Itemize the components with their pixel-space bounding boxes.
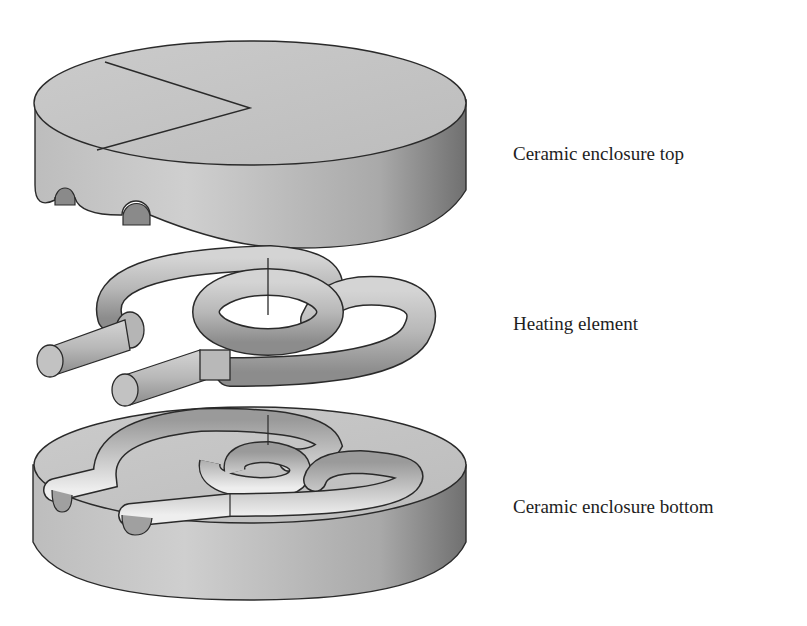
label-ceramic-enclosure-top: Ceramic enclosure top <box>513 144 684 163</box>
heating-element <box>37 258 421 406</box>
label-heating-element: Heating element <box>513 314 638 333</box>
ceramic-enclosure-bottom <box>33 407 466 600</box>
label-ceramic-enclosure-bottom: Ceramic enclosure bottom <box>513 497 714 516</box>
exploded-diagram <box>0 0 807 626</box>
ceramic-enclosure-top <box>34 41 466 248</box>
